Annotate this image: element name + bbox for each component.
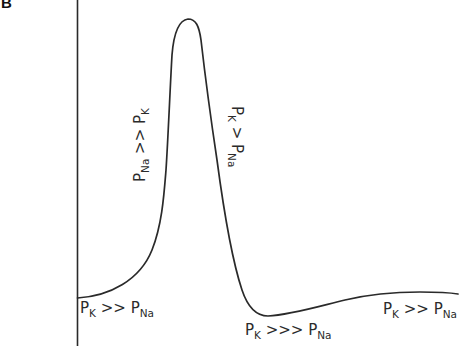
label-rest-start: PK >> PNa (80, 301, 154, 316)
label-rest-end: PK >> PNa (383, 302, 457, 317)
label-undershoot: PK >>> PNa (245, 323, 332, 338)
label-falling-phase: PK > PNa (229, 106, 244, 167)
action-potential-diagram: B PK >> PNa PNa >> PK PK > PNa PK >>> PN… (0, 0, 462, 357)
label-rising-phase: PNa >> PK (133, 108, 148, 182)
